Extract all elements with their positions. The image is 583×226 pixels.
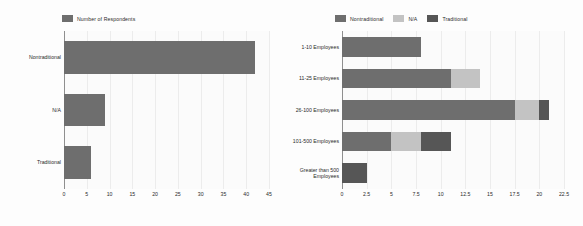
bar-row[interactable] [64, 94, 105, 127]
legend-item-0[interactable]: Number of Respondents [62, 15, 135, 22]
bar-segment[interactable] [64, 41, 255, 74]
gridline [269, 31, 270, 189]
bar-segment[interactable] [451, 69, 481, 89]
x-tick-label: 7.5 [412, 191, 419, 197]
legend-item-label: Number of Respondents [77, 16, 135, 22]
legend-swatch-icon [393, 15, 404, 22]
y-tick-label-text: 11-25 Employees [292, 75, 339, 81]
x-tick-label: 5 [85, 191, 88, 197]
x-tick-label: 22.5 [559, 191, 569, 197]
y-tick-label-text: Traditional [0, 159, 61, 165]
x-tick-label: 20 [152, 191, 158, 197]
y-tick-label-text: N/A [0, 107, 61, 113]
y-tick-label: 101-500 Employees [292, 138, 339, 144]
x-tick-label: 10 [438, 191, 444, 197]
bar-segment[interactable] [342, 69, 451, 89]
x-tick-label: 20 [536, 191, 542, 197]
bar-segment[interactable] [64, 146, 91, 179]
gridline [564, 31, 565, 189]
chart-legend-left: Number of Respondents [62, 15, 135, 22]
y-tick-label: Greater than 500 Employees [292, 167, 339, 180]
bar-segment[interactable] [515, 100, 540, 120]
y-tick-label-text: Greater than 500 Employees [292, 167, 339, 180]
bar-segment[interactable] [64, 94, 105, 127]
plot-area-left [64, 31, 269, 189]
bar-row[interactable] [342, 37, 421, 57]
bar-segment[interactable] [342, 132, 391, 152]
bar-row[interactable] [64, 41, 255, 74]
bar-segment[interactable] [342, 100, 515, 120]
bar-segment[interactable] [342, 37, 421, 57]
legend-item-label: N/A [408, 16, 417, 22]
bar-row[interactable] [342, 163, 367, 183]
legend-swatch-icon [427, 15, 438, 22]
bar-row[interactable] [64, 146, 91, 179]
dashboard-canvas: Number of Respondents NontraditionalN/AT… [0, 0, 583, 226]
legend-item-2[interactable]: Traditional [427, 15, 467, 22]
x-tick-label: 10 [107, 191, 113, 197]
x-tick-label: 5 [390, 191, 393, 197]
legend-swatch-icon [62, 15, 73, 22]
x-tick-label: 45 [266, 191, 272, 197]
x-tick-label: 40 [243, 191, 249, 197]
y-tick-label: N/A [0, 107, 61, 113]
chart-panel-right: NontraditionalN/ATraditional 1-10 Employ… [292, 0, 583, 226]
chart-panel-left: Number of Respondents NontraditionalN/AT… [0, 0, 292, 226]
y-tick-label: 11-25 Employees [292, 75, 339, 81]
x-tick-label: 17.5 [510, 191, 520, 197]
legend-item-label: Traditional [442, 16, 467, 22]
bar-row[interactable] [342, 100, 549, 120]
bar-segment[interactable] [539, 100, 549, 120]
y-tick-label-text: Nontraditional [0, 54, 61, 60]
x-tick-label: 15 [487, 191, 493, 197]
legend-item-1[interactable]: N/A [393, 15, 417, 22]
bar-row[interactable] [342, 132, 451, 152]
x-tick-label: 35 [221, 191, 227, 197]
x-tick-label: 15 [129, 191, 135, 197]
x-tick-label: 30 [198, 191, 204, 197]
x-tick-label: 0 [63, 191, 66, 197]
x-tick-label: 2.5 [363, 191, 370, 197]
x-tick-label: 12.5 [460, 191, 470, 197]
y-tick-label-text: 101-500 Employees [292, 138, 339, 144]
y-tick-label: Traditional [0, 159, 61, 165]
y-tick-label: 1-10 Employees [292, 44, 339, 50]
y-tick-label-text: 26-100 Employees [292, 107, 339, 113]
legend-item-0[interactable]: Nontraditional [335, 15, 383, 22]
bar-row[interactable] [342, 69, 480, 89]
y-tick-label-text: 1-10 Employees [292, 44, 339, 50]
chart-legend-right: NontraditionalN/ATraditional [335, 15, 468, 22]
y-tick-label: Nontraditional [0, 54, 61, 60]
x-tick-label: 0 [341, 191, 344, 197]
legend-item-label: Nontraditional [350, 16, 383, 22]
legend-swatch-icon [335, 15, 346, 22]
plot-area-right [342, 31, 564, 189]
x-tick-label: 25 [175, 191, 181, 197]
y-tick-label: 26-100 Employees [292, 107, 339, 113]
bar-segment[interactable] [342, 163, 367, 183]
bar-segment[interactable] [421, 132, 451, 152]
bar-segment[interactable] [391, 132, 421, 152]
